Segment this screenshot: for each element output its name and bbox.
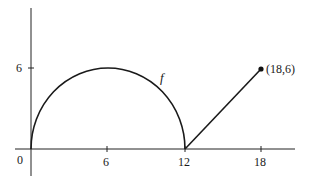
origin-label: 0 (17, 153, 23, 167)
function-label-f: f (160, 70, 166, 85)
y-tick-label-6: 6 (16, 61, 22, 75)
line-segment (185, 69, 261, 149)
x-tick-label-18: 18 (254, 155, 266, 169)
function-graph: 0 6 12 18 6 f (18,6) (0, 0, 309, 180)
point-label: (18,6) (266, 62, 295, 76)
endpoint-dot (258, 66, 263, 71)
x-tick-label-12: 12 (178, 155, 190, 169)
x-tick-label-6: 6 (103, 155, 109, 169)
